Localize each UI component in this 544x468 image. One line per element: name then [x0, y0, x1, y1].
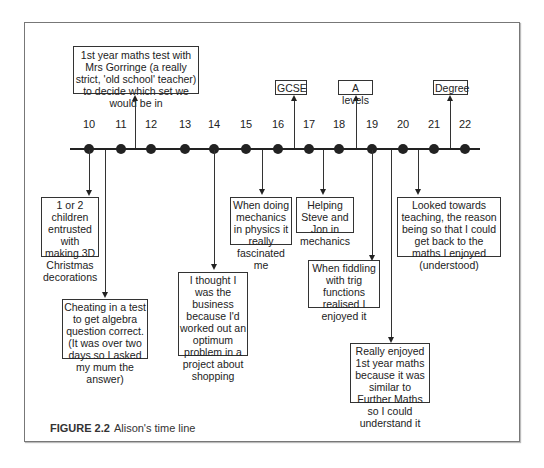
connector-gcse: [294, 100, 295, 148]
caption-label: FIGURE 2.2: [50, 422, 110, 434]
connector-further-maths: [391, 150, 392, 338]
arrow-down-icon: [320, 189, 326, 195]
year-marker: [398, 144, 408, 154]
arrow-up-icon: [447, 95, 453, 101]
year-label: 13: [173, 118, 197, 130]
year-label: 12: [139, 118, 163, 130]
year-label: 19: [360, 118, 384, 130]
connector-a-levels: [356, 100, 357, 148]
year-label: 15: [234, 118, 258, 130]
year-label: 11: [109, 118, 133, 130]
arrow-down-icon: [259, 189, 265, 195]
event-a-levels: A levels: [338, 80, 373, 95]
year-marker: [460, 144, 470, 154]
year-label: 22: [453, 118, 477, 130]
event-mechanics-physics: When doing mechanics in physics it reall…: [230, 197, 292, 245]
arrow-down-icon: [211, 264, 217, 270]
year-marker: [304, 144, 314, 154]
year-marker: [180, 144, 190, 154]
year-label: 20: [391, 118, 415, 130]
connector-christmas: [89, 150, 90, 190]
event-business: I thought I was the business because I'd…: [178, 272, 248, 356]
caption-text: Alison's time line: [114, 422, 196, 434]
connector-maths-test: [135, 100, 136, 148]
event-further-maths: Really enjoyed 1st year maths because it…: [350, 343, 430, 403]
event-maths-test: 1st year maths test with Mrs Gorringe (a…: [73, 46, 199, 94]
year-marker: [273, 144, 283, 154]
event-degree: Degree: [433, 80, 468, 95]
arrow-up-icon: [291, 95, 297, 101]
arrow-up-icon: [132, 95, 138, 101]
year-label: 16: [266, 118, 290, 130]
year-label: 10: [77, 118, 101, 130]
arrow-down-icon: [102, 292, 108, 298]
event-cheating: Cheating in a test to get algebra questi…: [62, 299, 148, 359]
year-label: 17: [297, 118, 321, 130]
arrow-down-icon: [86, 190, 92, 196]
connector-cheating: [105, 150, 106, 292]
arrow-down-icon: [415, 189, 421, 195]
year-marker: [146, 144, 156, 154]
figure-caption: FIGURE 2.2Alison's time line: [50, 422, 195, 434]
year-label: 18: [327, 118, 351, 130]
year-marker: [116, 144, 126, 154]
connector-business: [214, 150, 215, 265]
event-teaching: Looked towards teaching, the reason bein…: [397, 197, 501, 257]
event-gcse: GCSE: [275, 80, 307, 95]
connector-teaching: [418, 150, 419, 190]
event-trig: When fiddling with trig functions realis…: [308, 260, 380, 308]
year-marker: [334, 144, 344, 154]
connector-helping: [323, 150, 324, 190]
arrow-up-icon: [353, 95, 359, 101]
connector-trig: [372, 150, 373, 255]
event-helping: Helping Steve and Jon in mechanics: [296, 197, 354, 233]
year-label: 14: [202, 118, 226, 130]
year-label: 21: [422, 118, 446, 130]
connector-degree: [450, 100, 451, 148]
event-christmas: 1 or 2 children entrusted with making 3D…: [41, 197, 99, 257]
connector-mechanics-physics: [262, 150, 263, 190]
year-marker: [241, 144, 251, 154]
year-marker: [429, 144, 439, 154]
